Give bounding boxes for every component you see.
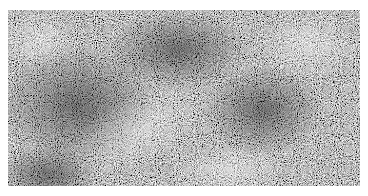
image-frame bbox=[0, 0, 368, 196]
noise-svg bbox=[8, 10, 360, 186]
noise-texture bbox=[8, 10, 360, 186]
